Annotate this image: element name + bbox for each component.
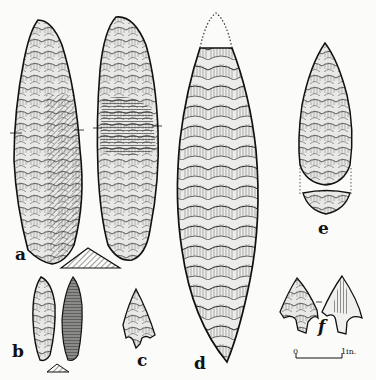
scale-end-label: 1in. — [341, 347, 356, 356]
figure-e-cross-section — [303, 191, 350, 215]
figure-a-face-1 — [10, 20, 84, 264]
figure-b — [33, 277, 82, 372]
figure-d — [177, 13, 258, 362]
label-a: a — [15, 246, 26, 263]
label-f: f — [318, 318, 325, 335]
scale-bar — [296, 353, 342, 358]
label-c: c — [137, 352, 147, 369]
figure-e — [299, 43, 352, 214]
label-e: e — [318, 220, 329, 237]
figure-c — [123, 289, 155, 348]
figure-a-face-2 — [93, 17, 162, 260]
archaeology-plate: a b c d e f 0 1in. — [0, 0, 376, 380]
figure-b-cross-section — [47, 364, 69, 372]
label-d: d — [194, 355, 206, 372]
scale-start-label: 0 — [293, 347, 298, 356]
label-b: b — [12, 343, 24, 360]
